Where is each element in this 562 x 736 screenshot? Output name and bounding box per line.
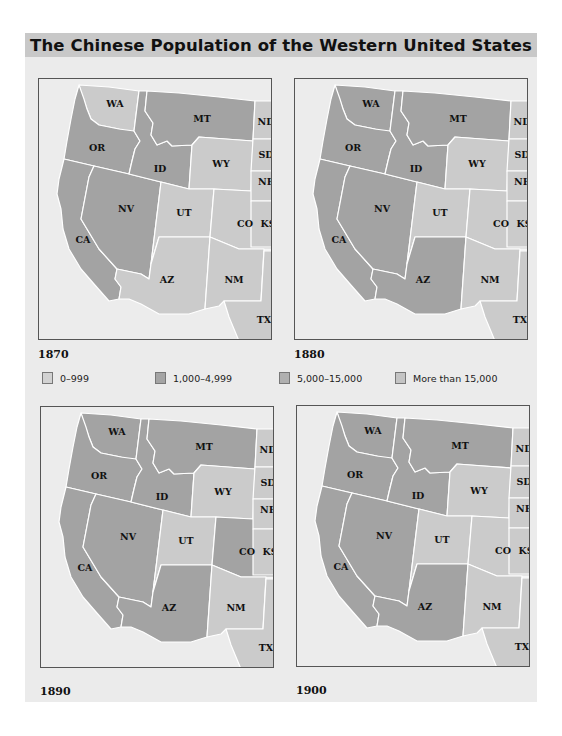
state-label-tx: TX — [257, 314, 271, 325]
state-label-az: AZ — [415, 274, 430, 285]
year-label-1890: 1890 — [40, 685, 71, 698]
state-label-tx: TX — [259, 642, 273, 653]
state-label-mt: MT — [195, 441, 213, 452]
state-label-ca: CA — [78, 562, 94, 573]
state-label-id: ID — [410, 163, 423, 174]
state-label-az: AZ — [159, 274, 174, 285]
state-label-tx: TX — [513, 314, 527, 325]
year-label-1880: 1880 — [294, 348, 325, 361]
legend-swatch — [279, 372, 290, 384]
state-label-nm: NM — [224, 274, 244, 285]
map-1900: WAORCANVIDMTWYUTCOAZNMNDSDNEKSTX — [296, 405, 530, 667]
state-label-wa: WA — [107, 426, 126, 437]
state-label-wy: WY — [467, 158, 486, 169]
state-label-co: CO — [239, 546, 255, 557]
map-svg: WAORCANVIDMTWYUTCOAZNMNDSDNEKSTX — [41, 407, 273, 667]
state-label-nd: ND — [258, 116, 271, 127]
state-label-id: ID — [412, 490, 425, 501]
legend-label: 5,000–15,000 — [297, 373, 362, 384]
state-label-co: CO — [493, 218, 509, 229]
state-label-ca: CA — [332, 234, 348, 245]
legend-item-5000-15000: 5,000–15,000 — [279, 372, 362, 384]
state-label-ks: KS — [516, 218, 527, 229]
title-bar: The Chinese Population of the Western Un… — [25, 33, 537, 57]
state-label-nm: NM — [226, 602, 246, 613]
state-label-sd: SD — [516, 476, 529, 487]
state-label-ut: UT — [176, 207, 191, 218]
state-label-sd: SD — [258, 149, 271, 160]
state-label-az: AZ — [417, 601, 432, 612]
map-1880: WAORCANVIDMTWYUTCOAZNMNDSDNEKSTX — [294, 78, 528, 340]
state-label-ut: UT — [432, 207, 447, 218]
year-label-1870: 1870 — [38, 348, 69, 361]
legend-swatch — [42, 372, 53, 384]
map-svg: WAORCANVIDMTWYUTCOAZNMNDSDNEKSTX — [39, 79, 271, 339]
map-1890: WAORCANVIDMTWYUTCOAZNMNDSDNEKSTX — [40, 406, 274, 668]
page-title: The Chinese Population of the Western Un… — [30, 36, 532, 55]
state-label-nv: NV — [120, 531, 137, 542]
legend-item-1000-4999: 1,000–4,999 — [155, 372, 232, 384]
state-label-tx: TX — [515, 641, 529, 652]
state-label-sd: SD — [514, 149, 527, 160]
legend-swatch — [395, 372, 406, 384]
state-label-nd: ND — [514, 116, 527, 127]
state-label-ca: CA — [334, 561, 350, 572]
state-label-co: CO — [495, 545, 511, 556]
legend-label: 1,000–4,999 — [173, 373, 232, 384]
state-label-ca: CA — [76, 234, 92, 245]
state-label-mt: MT — [193, 113, 211, 124]
map-svg: WAORCANVIDMTWYUTCOAZNMNDSDNEKSTX — [295, 79, 527, 339]
state-label-wa: WA — [363, 425, 382, 436]
legend-swatch — [155, 372, 166, 384]
legend-item-more-than-15000: More than 15,000 — [395, 372, 497, 384]
state-label-co: CO — [237, 218, 253, 229]
state-label-wy: WY — [211, 158, 230, 169]
state-label-ne: NE — [516, 503, 529, 514]
state-label-nm: NM — [482, 601, 502, 612]
map-1870: WAORCANVIDMTWYUTCOAZNMNDSDNEKSTX — [38, 78, 272, 340]
state-label-nv: NV — [376, 530, 393, 541]
map-svg: WAORCANVIDMTWYUTCOAZNMNDSDNEKSTX — [297, 406, 529, 666]
state-label-wa: WA — [361, 98, 380, 109]
state-label-id: ID — [154, 163, 167, 174]
state-label-ks: KS — [260, 218, 271, 229]
state-label-nd: ND — [516, 443, 529, 454]
state-label-wa: WA — [105, 98, 124, 109]
state-label-az: AZ — [161, 602, 176, 613]
state-label-wy: WY — [469, 485, 488, 496]
state-label-ut: UT — [434, 534, 449, 545]
state-label-ks: KS — [262, 546, 273, 557]
state-label-sd: SD — [260, 477, 273, 488]
state-label-or: OR — [345, 142, 361, 153]
state-label-ne: NE — [258, 176, 271, 187]
state-label-ut: UT — [178, 535, 193, 546]
year-label-1900: 1900 — [296, 684, 327, 697]
legend-item-0-999: 0–999 — [42, 372, 89, 384]
state-label-nv: NV — [374, 203, 391, 214]
state-label-id: ID — [156, 491, 169, 502]
state-label-ne: NE — [514, 176, 527, 187]
state-label-ks: KS — [518, 545, 529, 556]
state-label-wy: WY — [213, 486, 232, 497]
state-label-or: OR — [91, 470, 107, 481]
state-label-nm: NM — [480, 274, 500, 285]
state-label-nd: ND — [260, 444, 273, 455]
state-label-mt: MT — [449, 113, 467, 124]
legend-label: More than 15,000 — [413, 373, 497, 384]
legend-label: 0–999 — [60, 373, 89, 384]
state-label-nv: NV — [118, 203, 135, 214]
state-label-mt: MT — [451, 440, 469, 451]
state-label-or: OR — [89, 142, 105, 153]
state-label-or: OR — [347, 469, 363, 480]
state-label-ne: NE — [260, 504, 273, 515]
